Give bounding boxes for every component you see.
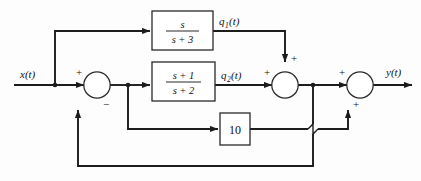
label-q1-signal: q 1 (t) (219, 15, 240, 30)
block-top-denominator: s + 3 (172, 34, 194, 45)
wire-gain-to-summer3 (250, 110, 348, 134)
block-middle-denominator: s + 2 (173, 85, 195, 96)
summer-1-sign-bottom: − (103, 98, 109, 110)
wire-q1-to-summer2 (213, 31, 285, 62)
block-diagram-figure: s s + 3 s + 1 s + 2 10 + − + + + + x(t) … (0, 0, 421, 181)
label-q2-signal: q 2 (t) (221, 69, 242, 84)
label-output-signal: y(t) (385, 66, 402, 79)
label-input-signal: x(t) (19, 68, 36, 81)
block-middle[interactable]: s + 1 s + 2 (152, 62, 215, 101)
label-q2-tail: (t) (231, 69, 242, 82)
summer-2-sign-left: + (264, 66, 270, 78)
summer-2[interactable]: + + (264, 52, 298, 98)
label-q1-tail: (t) (229, 15, 240, 28)
block-middle-numerator: s + 1 (173, 70, 195, 81)
summer-3-sign-bottom: + (353, 98, 359, 110)
summer-1-sign-left: + (76, 66, 82, 78)
block-top[interactable]: s s + 3 (152, 11, 213, 50)
summer-1[interactable]: + − (76, 66, 110, 110)
block-diagram-canvas: s s + 3 s + 1 s + 2 10 + − + + + + x(t) … (0, 0, 421, 181)
block-gain-value: 10 (229, 123, 241, 137)
summer-3-sign-left: + (339, 66, 345, 78)
block-gain[interactable]: 10 (220, 113, 250, 145)
summer-3[interactable]: + + (339, 66, 373, 110)
summer-2-sign-top: + (291, 52, 297, 64)
block-top-numerator: s (180, 19, 184, 30)
